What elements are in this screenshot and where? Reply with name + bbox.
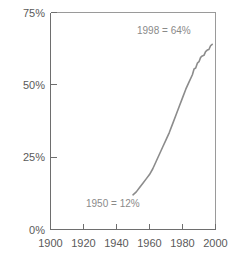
chart-container: 0% 25% 50% 75% 1900 1920 1940 1960 1980 …	[0, 0, 230, 261]
line-chart: 0% 25% 50% 75% 1900 1920 1940 1960 1980 …	[0, 0, 230, 261]
x-tick-label-1900: 1900	[38, 237, 62, 249]
y-tick-label-0: 0%	[29, 224, 45, 236]
x-tick-label-1980: 1980	[170, 237, 194, 249]
y-tick-label-75: 75%	[23, 7, 45, 19]
annotation-1998: 1998 = 64%	[137, 25, 191, 36]
annotation-1950: 1950 = 12%	[86, 198, 140, 209]
x-axis-ticks	[51, 224, 216, 230]
y-tick-label-50: 50%	[23, 79, 45, 91]
x-tick-label-1940: 1940	[104, 237, 128, 249]
y-axis-ticks	[51, 13, 57, 230]
data-series-line	[133, 44, 212, 194]
x-tick-label-2000: 2000	[203, 237, 227, 249]
x-tick-label-1920: 1920	[71, 237, 95, 249]
y-tick-label-25: 25%	[23, 151, 45, 163]
x-tick-label-1960: 1960	[137, 237, 161, 249]
